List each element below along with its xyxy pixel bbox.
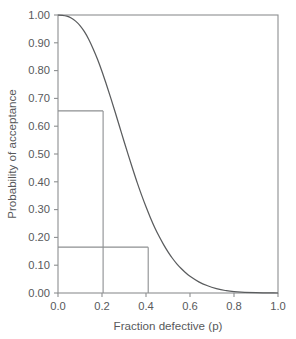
operating-characteristic-chart: 0.000.100.200.300.400.500.600.700.800.90… xyxy=(0,0,296,339)
y-tick-label: 0.00 xyxy=(28,287,50,299)
y-tick-label: 0.40 xyxy=(28,176,50,188)
y-axis-tick-labels: 0.000.100.200.300.400.500.600.700.800.90… xyxy=(28,9,50,299)
y-tick-label: 0.20 xyxy=(28,231,50,243)
y-tick-label: 0.10 xyxy=(28,259,50,271)
y-tick-label: 1.00 xyxy=(28,9,50,21)
x-tick-label: 0.4 xyxy=(138,300,154,312)
x-tick-label: 0.2 xyxy=(94,300,110,312)
y-tick-label: 0.60 xyxy=(28,120,50,132)
y-tick-label: 0.70 xyxy=(28,92,50,104)
x-tick-label: 0.0 xyxy=(50,300,66,312)
reference-lines-group xyxy=(58,111,148,293)
x-axis-title: Fraction defective (p) xyxy=(114,319,223,332)
y-tick-label: 0.30 xyxy=(28,203,50,215)
x-axis-tick-labels: 0.00.20.40.60.81.0 xyxy=(50,300,286,312)
x-tick-label: 0.6 xyxy=(182,300,198,312)
oc-curve xyxy=(58,15,278,293)
x-tick-label: 0.8 xyxy=(226,300,242,312)
y-axis-tick-marks xyxy=(54,15,58,293)
y-tick-label: 0.90 xyxy=(28,37,50,49)
y-axis-title: Probability of acceptance xyxy=(5,89,18,219)
y-tick-label: 0.80 xyxy=(28,64,50,76)
x-axis-tick-marks xyxy=(58,293,278,297)
chart-canvas: 0.000.100.200.300.400.500.600.700.800.90… xyxy=(0,0,296,339)
x-tick-label: 1.0 xyxy=(270,300,286,312)
y-tick-label: 0.50 xyxy=(28,148,50,160)
